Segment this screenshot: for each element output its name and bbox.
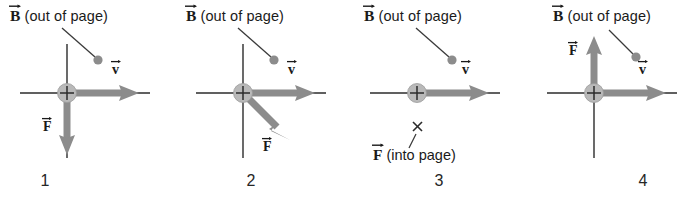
panel-option-1[interactable]: B (out of page) — [0, 0, 176, 201]
f-vector-symbol: F — [373, 147, 382, 163]
charge-marker — [234, 84, 253, 103]
velocity-label-2: v — [288, 61, 295, 77]
b-leader-line — [609, 30, 633, 54]
v-symbol-text: v — [462, 62, 469, 77]
f-vector-symbol: F — [43, 120, 52, 134]
velocity-label-4: v — [639, 61, 646, 77]
f-symbol-text: F — [569, 43, 578, 58]
v-vector-symbol: v — [462, 63, 469, 77]
v-symbol-text: v — [639, 62, 646, 77]
force-label-2: F — [263, 138, 272, 154]
panel-option-2[interactable]: B (out of page) — [176, 0, 352, 201]
charge-marker — [58, 84, 77, 103]
force-into-page-cross-icon — [413, 122, 422, 131]
panel-number-1: 1 — [0, 172, 133, 190]
force-arrow — [243, 93, 290, 140]
panel-option-3[interactable]: B (out of page) — [350, 0, 526, 201]
v-symbol-text: v — [288, 62, 295, 77]
charge-marker — [585, 84, 604, 103]
velocity-arrow — [243, 85, 315, 101]
velocity-label-1: v — [112, 61, 119, 77]
v-symbol-text: v — [112, 62, 119, 77]
b-out-of-page-dot-icon — [93, 55, 102, 64]
force-label-4: F — [569, 42, 578, 58]
panel-number-3: 3 — [351, 172, 527, 190]
panel-2-graphic — [176, 0, 352, 201]
panel-number-4: 4 — [555, 172, 681, 190]
f-symbol-text: F — [373, 146, 382, 163]
f-symbol-text: F — [263, 139, 272, 154]
v-vector-symbol: v — [288, 63, 295, 77]
panel-1-graphic — [0, 0, 176, 201]
velocity-arrow — [417, 85, 489, 101]
charge-marker — [408, 84, 427, 103]
f-symbol-text: F — [43, 119, 52, 134]
panel-option-4[interactable]: B (out of page) — [527, 0, 681, 201]
velocity-arrow — [594, 85, 666, 101]
f-vector-symbol: F — [569, 44, 578, 58]
v-vector-symbol: v — [112, 63, 119, 77]
f-vector-symbol: F — [263, 140, 272, 154]
b-out-of-page-dot-icon — [447, 55, 456, 64]
f-leader-line — [409, 134, 416, 148]
panel-number-2: 2 — [163, 172, 339, 190]
b-leader-line — [416, 28, 449, 57]
velocity-label-3: v — [462, 61, 469, 77]
velocity-arrow — [67, 85, 139, 101]
panel-4-graphic — [527, 0, 681, 201]
b-out-of-page-dot-icon — [269, 55, 278, 64]
f-into-page-text: (into page) — [386, 147, 455, 163]
force-label-1: F — [43, 118, 52, 134]
force-into-page-label-3: F (into page) — [373, 147, 456, 163]
panel-3-graphic — [350, 0, 526, 201]
v-vector-symbol: v — [639, 63, 646, 77]
